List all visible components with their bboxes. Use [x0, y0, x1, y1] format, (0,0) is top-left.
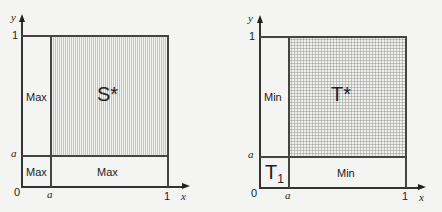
- x-axis: [21, 186, 183, 188]
- tick-one-y: 1: [249, 31, 255, 42]
- y-axis-label: y: [248, 13, 253, 24]
- line-x-one: [405, 36, 407, 188]
- tick-one-x: 1: [164, 191, 170, 202]
- line-y-one: [21, 35, 169, 37]
- x-axis: [259, 187, 419, 189]
- region-bottom-label: Max: [97, 167, 118, 178]
- line-x-a: [50, 35, 52, 187]
- line-x-a: [288, 36, 290, 188]
- tick-a-x: a: [47, 189, 53, 200]
- t1-subscript: 1: [277, 172, 284, 186]
- region-corner-label: Max: [26, 167, 47, 178]
- y-axis: [21, 20, 23, 187]
- line-y-a: [259, 156, 407, 158]
- tick-one-y: 1: [12, 30, 18, 41]
- origin-label: 0: [14, 187, 20, 198]
- t1-main: T: [265, 161, 277, 183]
- t-star-label: T*: [331, 84, 351, 104]
- y-axis: [259, 21, 261, 188]
- x-axis-arrow-icon: [418, 184, 426, 190]
- tick-one-x: 1: [402, 191, 408, 202]
- x-axis-arrow-icon: [182, 183, 190, 189]
- line-x-one: [167, 35, 169, 187]
- origin-label: 0: [251, 188, 257, 199]
- y-axis-arrow-icon: [19, 14, 25, 22]
- s-star-label: S*: [97, 84, 118, 104]
- line-y-a: [21, 155, 169, 157]
- y-axis-arrow-icon: [257, 15, 263, 23]
- tick-a-y: a: [248, 149, 254, 160]
- x-axis-label: x: [181, 191, 186, 202]
- line-y-one: [259, 36, 407, 38]
- region-left-label: Min: [264, 92, 282, 103]
- tick-a-y: a: [11, 148, 17, 159]
- y-axis-label: y: [11, 12, 16, 23]
- region-left-label: Max: [26, 92, 47, 103]
- left-diagram-panel: y x 0 1 1 a a S* Max Max Max: [0, 0, 221, 212]
- x-axis-label: x: [419, 192, 424, 203]
- region-corner-label: T1: [265, 162, 284, 185]
- tick-a-x: a: [285, 190, 291, 201]
- right-diagram-panel: y x 0 1 1 a a T* Min T1 Min: [221, 0, 442, 212]
- region-bottom-label: Min: [337, 168, 355, 179]
